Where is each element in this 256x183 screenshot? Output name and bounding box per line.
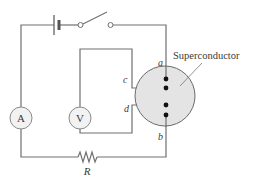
wire-left-lower bbox=[21, 129, 78, 157]
resistor-label: R bbox=[83, 165, 91, 177]
contact-a-dot bbox=[164, 77, 169, 82]
switch-icon[interactable] bbox=[78, 12, 113, 28]
wire-top-left bbox=[21, 25, 54, 107]
contact-c-dot bbox=[164, 86, 169, 91]
ammeter-symbol: A bbox=[17, 112, 25, 124]
contact-d-dot bbox=[164, 103, 169, 108]
contact-b-dot bbox=[164, 113, 169, 118]
voltmeter: V bbox=[69, 107, 91, 129]
battery-icon bbox=[54, 15, 59, 35]
label-c: c bbox=[123, 74, 128, 85]
ammeter: A bbox=[10, 107, 32, 129]
resistor-icon bbox=[78, 152, 97, 162]
superconductor-label: Superconductor bbox=[173, 50, 240, 61]
label-b: b bbox=[158, 131, 163, 142]
voltmeter-symbol: V bbox=[76, 112, 84, 124]
circuit-diagram: A V R a c d b Superconductor bbox=[0, 0, 256, 183]
label-a: a bbox=[158, 57, 163, 68]
label-d: d bbox=[124, 103, 130, 114]
